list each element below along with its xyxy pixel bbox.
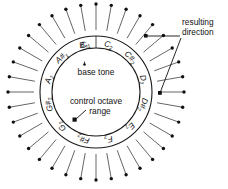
- resulting-direction-arrow: [29, 35, 49, 52]
- note-octave-subscript: 2: [136, 106, 143, 111]
- resulting-direction-arrow-tip: [38, 158, 41, 161]
- resulting-direction-arrow: [9, 77, 35, 82]
- note-octave-subscript: 2: [77, 132, 82, 139]
- resulting-direction-arrow-tip: [138, 167, 141, 170]
- resulting-direction-arrow-tip: [8, 75, 11, 78]
- resulting-direction-label-line1: resulting: [182, 17, 214, 27]
- note-label-text: G2: [55, 119, 69, 133]
- resulting-direction-arrow: [107, 153, 112, 179]
- resulting-direction-arrow: [150, 123, 173, 136]
- resulting-direction-arrow: [52, 16, 65, 39]
- resulting-direction-marker-bottom: [158, 91, 162, 95]
- note-label-text: E2: [124, 120, 137, 133]
- resulting-direction-arrow-tip: [151, 158, 154, 161]
- resulting-direction-arrow: [157, 103, 183, 108]
- resulting-direction-arrow-tip: [181, 106, 184, 109]
- note-octave-subscript: 2: [58, 119, 65, 126]
- resulting-direction-arrow-tip: [50, 167, 53, 170]
- control-octave-label-line1: control octave: [70, 96, 122, 106]
- resulting-direction-arrow: [117, 9, 126, 33]
- note-label-G2: G2: [55, 119, 69, 133]
- resulting-direction-arrow-tip: [50, 14, 53, 17]
- resulting-direction-arrow-tip: [162, 34, 165, 37]
- resulting-direction-arrow-tip: [171, 134, 174, 137]
- resulting-direction-arrow-tip: [27, 34, 30, 37]
- resulting-direction-arrow-tip: [94, 2, 97, 5]
- resulting-direction-annotation: resulting direction: [144, 17, 214, 95]
- resulting-direction-arrow: [20, 123, 43, 136]
- resulting-direction-arrow-tip: [110, 177, 113, 180]
- resulting-direction-arrow-tip: [64, 8, 67, 11]
- note-octave-subscript: 1: [64, 53, 70, 59]
- control-octave-leader-line: [76, 110, 86, 119]
- resulting-direction-arrow: [39, 25, 56, 45]
- note-wheel-diagram: C2C#2D2D#2E2F2F#2G2G#2A2A#1B1C1 base ton…: [0, 0, 228, 189]
- resulting-direction-arrow: [13, 113, 37, 122]
- resulting-direction-arrow: [81, 153, 86, 179]
- resulting-direction-leader-bottom: [160, 38, 181, 93]
- resulting-direction-arrow-tip: [79, 4, 82, 7]
- control-octave-label-line2: range: [89, 106, 111, 116]
- resulting-direction-arrow-tip: [79, 177, 82, 180]
- note-octave-subscript: 2: [124, 123, 131, 130]
- ring-inner-circle: [52, 48, 140, 136]
- resulting-direction-arrow-tip: [138, 14, 141, 17]
- resulting-direction-arrow-tip: [171, 46, 174, 49]
- center-label-group: base tone control octave range: [70, 62, 122, 122]
- start-note-octave-subscript: 1: [86, 42, 91, 49]
- resulting-direction-arrow: [20, 48, 43, 61]
- resulting-direction-arrow: [143, 132, 163, 149]
- ring-outer-circle: [40, 36, 152, 148]
- resulting-direction-arrow: [13, 62, 37, 71]
- resulting-direction-arrow: [117, 150, 126, 174]
- resulting-direction-arrow-tip: [8, 106, 11, 109]
- resulting-direction-arrow-tip: [124, 173, 127, 176]
- note-octave-subscript: 2: [129, 59, 136, 66]
- resulting-direction-arrow-tip: [124, 8, 127, 11]
- ring-tick-group: [40, 36, 152, 148]
- note-label-group: C2C#2D2D#2E2F2F#2G2G#2A2A#1B1C1: [43, 39, 150, 145]
- note-label-text: C2: [103, 39, 114, 51]
- note-label-A2: A2: [43, 74, 55, 86]
- resulting-direction-arrow: [81, 5, 86, 31]
- figure-root: C2C#2D2D#2E2F2F#2G2G#2A2A#1B1C1 base ton…: [0, 0, 228, 189]
- resulting-direction-arrow-tip: [177, 60, 180, 63]
- resulting-direction-arrow-tip: [110, 4, 113, 7]
- resulting-direction-label-line2: direction: [182, 27, 214, 37]
- resulting-direction-arrow-tip: [6, 90, 9, 93]
- resulting-direction-arrow-tip: [18, 46, 21, 49]
- resulting-direction-arrow: [39, 139, 56, 159]
- resulting-direction-arrow: [150, 48, 173, 61]
- resulting-direction-arrow: [66, 150, 75, 174]
- note-octave-subscript: 2: [48, 75, 55, 80]
- resulting-direction-arrow: [157, 77, 183, 82]
- resulting-direction-arrow: [29, 132, 49, 149]
- start-note-label-C1: C1: [79, 39, 91, 51]
- resulting-direction-arrow-tip: [177, 120, 180, 123]
- control-octave-marker-square: [73, 118, 77, 122]
- resulting-direction-arrow-tip: [94, 178, 97, 181]
- resulting-direction-arrow: [143, 35, 163, 52]
- resulting-direction-arrow-tip: [38, 23, 41, 26]
- resulting-direction-arrow: [136, 139, 153, 159]
- resulting-direction-arrow-tip: [151, 23, 154, 26]
- resulting-direction-marker-top: [144, 34, 148, 38]
- resulting-direction-arrow-tip: [181, 75, 184, 78]
- note-label-E2: E2: [124, 120, 137, 133]
- note-octave-subscript: 2: [108, 45, 113, 52]
- resulting-direction-arrow: [127, 16, 140, 39]
- resulting-direction-arrow: [52, 146, 65, 169]
- resulting-direction-arrow-tip: [182, 90, 185, 93]
- resulting-direction-arrow-tip: [12, 60, 15, 63]
- resulting-direction-arrow-tip: [27, 147, 30, 150]
- note-label-C2: C2: [103, 39, 114, 51]
- resulting-direction-arrow: [154, 113, 178, 122]
- note-label-text: A2: [43, 74, 55, 86]
- resulting-direction-arrow-tip: [18, 134, 21, 137]
- resulting-direction-arrow-tip: [64, 173, 67, 176]
- resulting-direction-arrow: [9, 103, 35, 108]
- base-tone-label: base tone: [78, 67, 115, 77]
- resulting-direction-arrow: [66, 9, 75, 33]
- resulting-direction-arrow: [107, 5, 112, 31]
- resulting-direction-arrow: [127, 146, 140, 169]
